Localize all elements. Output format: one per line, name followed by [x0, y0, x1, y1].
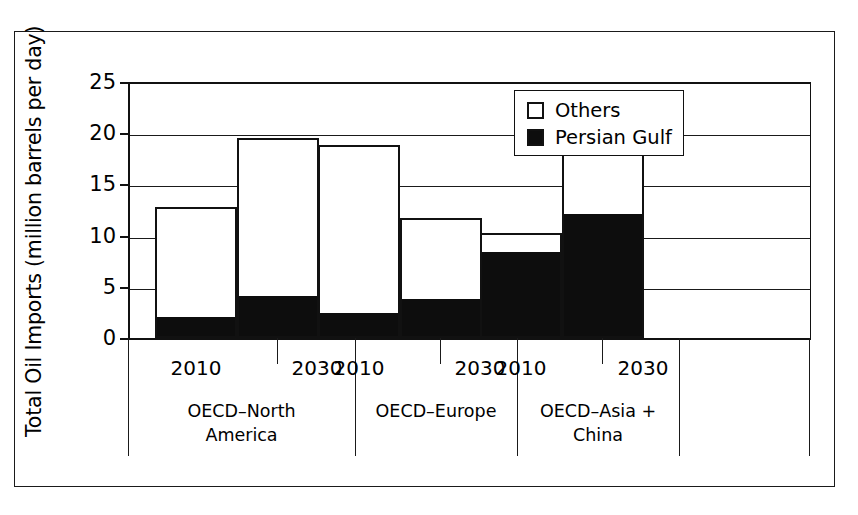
legend-swatch-persian-gulf-icon [527, 129, 544, 146]
y-tick-label-10: 10 [70, 225, 116, 246]
bar-2 [237, 138, 319, 338]
legend-label-persian-gulf: Persian Gulf [555, 128, 672, 148]
y-tick-mark-10 [120, 236, 128, 238]
bar-3 [318, 145, 400, 338]
bar-5 [480, 233, 562, 338]
x-group-label-3: OECD–Asia + China [517, 400, 679, 447]
x-group-label-2-line1: OECD–Europe [355, 400, 517, 424]
bar-4 [400, 218, 482, 338]
x-year-label-2010-group-2: 2010 [304, 358, 414, 378]
bar-1-persian-gulf-segment [157, 317, 235, 336]
bar-2-persian-gulf-segment [239, 296, 317, 336]
legend-entry-persian-gulf: Persian Gulf [527, 124, 683, 151]
y-tick-label-5: 5 [70, 276, 116, 297]
chart-legend: Others Persian Gulf [514, 90, 684, 156]
x-group-label-2: OECD–Europe [355, 400, 517, 424]
bar-3-persian-gulf-segment [320, 313, 398, 336]
bar-1 [155, 207, 237, 338]
x-group-label-1-line2: America [128, 424, 355, 448]
bar-6-persian-gulf-segment [564, 214, 642, 336]
x-group-label-1: OECD–NorthAmerica [128, 400, 355, 447]
x-group-separator-4 [679, 338, 680, 456]
y-tick-mark-0 [120, 338, 128, 340]
y-tick-mark-25 [120, 82, 128, 84]
legend-swatch-others-icon [527, 102, 544, 119]
bar-6 [562, 131, 644, 338]
y-tick-label-15: 15 [70, 174, 116, 195]
y-axis-title: Total Oil Imports (million barrels per d… [22, 77, 46, 437]
legend-label-others: Others [555, 101, 621, 121]
x-year-label-2010-group-1: 2010 [141, 358, 251, 378]
y-tick-mark-5 [120, 287, 128, 289]
y-tick-mark-15 [120, 184, 128, 186]
y-tick-mark-20 [120, 133, 128, 135]
y-tick-label-20: 20 [70, 123, 116, 144]
gridline-15 [130, 186, 810, 187]
x-group-separator-5 [809, 338, 810, 456]
x-year-label-2030-group-3: 2030 [588, 358, 698, 378]
y-tick-label-25: 25 [70, 72, 116, 93]
gridline-20 [130, 135, 810, 136]
x-group-label-1-line1: OECD–North [128, 400, 355, 424]
x-group-label-3-line1: OECD–Asia + China [517, 400, 679, 447]
legend-entry-others: Others [527, 97, 683, 124]
bar-5-persian-gulf-segment [482, 252, 560, 336]
x-axis-line [128, 338, 810, 340]
x-year-label-2010-group-3: 2010 [466, 358, 576, 378]
figure-chart: Total Oil Imports (million barrels per d… [0, 0, 858, 515]
bar-4-persian-gulf-segment [402, 299, 480, 336]
y-tick-label-0: 0 [70, 328, 116, 349]
